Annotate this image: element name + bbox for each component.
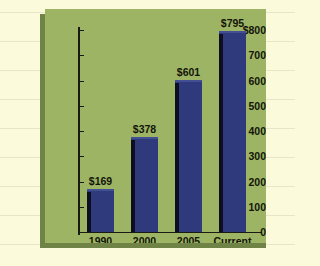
bar [131,137,158,232]
bar-left-edge [87,192,91,232]
y-axis-tick [78,30,84,31]
x-axis-label-current: Current [205,235,261,243]
y-axis-tick [78,81,84,82]
y-axis-tick [78,131,84,132]
bar-left-edge [219,34,223,232]
bar-left-edge [131,140,135,232]
bar-value-label: $378 [119,123,171,135]
y-axis-tick [78,232,84,233]
bar-highlight-cap [175,80,202,82]
bar-highlight-cap [131,137,158,139]
bar-value-label: $169 [75,175,127,187]
bar-highlight-cap [87,189,114,191]
bar-left-edge [175,83,179,232]
bar-value-label: $601 [163,66,215,78]
bar-value-label: $795 [207,17,259,29]
y-axis-tick [78,156,84,157]
bar-chart-panel: 0100200300400500600700$800 $169$378$601$… [45,9,266,243]
bar [175,80,202,232]
bar [87,189,114,232]
bar [219,31,246,232]
y-axis-tick [78,106,84,107]
y-axis-tick [78,55,84,56]
y-axis-tick [78,207,84,208]
bar-highlight-cap [219,31,246,33]
